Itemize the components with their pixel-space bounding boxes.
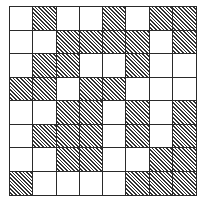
blank-cell bbox=[103, 125, 126, 149]
hatched-cell bbox=[173, 101, 196, 125]
hatched-cell bbox=[126, 125, 149, 149]
hatched-cell bbox=[126, 172, 149, 196]
blank-cell bbox=[126, 7, 149, 31]
hatched-cell bbox=[80, 101, 103, 125]
blank-cell bbox=[57, 7, 80, 31]
hatched-cell bbox=[173, 7, 196, 31]
hatched-cell bbox=[80, 125, 103, 149]
blank-cell bbox=[150, 31, 173, 55]
blank-cell bbox=[10, 7, 33, 31]
hatched-cell bbox=[150, 172, 173, 196]
blank-cell bbox=[57, 78, 80, 102]
blank-cell bbox=[126, 148, 149, 172]
blank-cell bbox=[150, 101, 173, 125]
blank-cell bbox=[33, 31, 56, 55]
hatched-cell bbox=[57, 31, 80, 55]
blank-cell bbox=[57, 172, 80, 196]
hatched-cell bbox=[80, 148, 103, 172]
hatched-cell bbox=[126, 31, 149, 55]
blank-cell bbox=[80, 7, 103, 31]
hatched-cell bbox=[10, 172, 33, 196]
blank-cell bbox=[80, 54, 103, 78]
hatched-cell bbox=[57, 148, 80, 172]
hatched-cell bbox=[173, 125, 196, 149]
blank-cell bbox=[103, 172, 126, 196]
hatched-cell bbox=[10, 78, 33, 102]
blank-cell bbox=[150, 78, 173, 102]
blank-cell bbox=[10, 54, 33, 78]
blank-cell bbox=[150, 125, 173, 149]
hatched-cell bbox=[57, 125, 80, 149]
blank-cell bbox=[173, 78, 196, 102]
hatched-cell bbox=[80, 31, 103, 55]
blank-cell bbox=[103, 101, 126, 125]
hatched-cell bbox=[173, 148, 196, 172]
hatched-cell bbox=[173, 31, 196, 55]
blank-cell bbox=[173, 54, 196, 78]
hatched-cell bbox=[33, 78, 56, 102]
blank-cell bbox=[10, 125, 33, 149]
hatched-cell bbox=[103, 7, 126, 31]
hatched-cell bbox=[80, 78, 103, 102]
hatched-cell bbox=[126, 54, 149, 78]
blank-cell bbox=[150, 54, 173, 78]
hatched-cell bbox=[150, 7, 173, 31]
hatched-cell bbox=[57, 101, 80, 125]
hatched-cell bbox=[33, 7, 56, 31]
blank-cell bbox=[126, 78, 149, 102]
blank-cell bbox=[10, 148, 33, 172]
blank-cell bbox=[10, 101, 33, 125]
blank-cell bbox=[103, 54, 126, 78]
hatched-cell bbox=[103, 78, 126, 102]
blank-cell bbox=[103, 148, 126, 172]
hatched-cell bbox=[126, 101, 149, 125]
hatched-cell bbox=[173, 172, 196, 196]
hatched-grid bbox=[9, 6, 197, 196]
hatched-cell bbox=[33, 54, 56, 78]
diagram-canvas bbox=[0, 0, 208, 204]
hatched-cell bbox=[57, 54, 80, 78]
blank-cell bbox=[33, 101, 56, 125]
hatched-cell bbox=[103, 31, 126, 55]
hatched-cell bbox=[33, 125, 56, 149]
blank-cell bbox=[80, 172, 103, 196]
blank-cell bbox=[10, 31, 33, 55]
blank-cell bbox=[33, 172, 56, 196]
blank-cell bbox=[33, 148, 56, 172]
hatched-cell bbox=[150, 148, 173, 172]
